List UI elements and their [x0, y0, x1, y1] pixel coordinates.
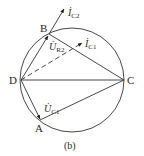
phasor-diagram: B C D A İC2 İC1 U̇R2 U̇C1 (b)	[0, 0, 144, 156]
label-a: A	[35, 122, 43, 134]
label-c: C	[127, 74, 134, 86]
label-uc1: U̇C1	[44, 103, 60, 116]
label-b: B	[40, 22, 47, 34]
label-ic2: İC2	[67, 7, 80, 20]
figure-caption: (b)	[64, 140, 76, 152]
label-ur2: U̇R2	[49, 41, 65, 54]
label-d: D	[9, 74, 17, 86]
label-ic1: İC1	[84, 38, 97, 51]
